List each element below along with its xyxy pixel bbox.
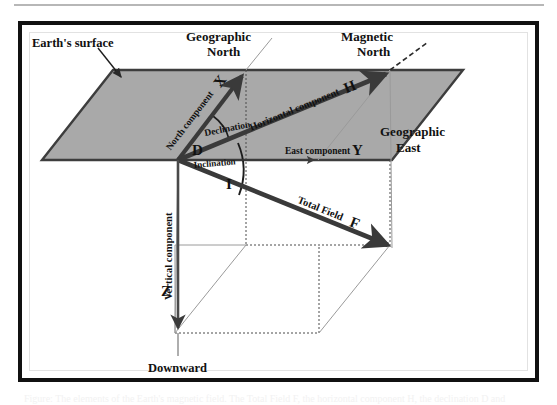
figure-inner-frame (29, 32, 528, 371)
top-horizontal-rule (14, 4, 544, 6)
figure-page: Earth's surface Geographic North Magneti… (0, 0, 557, 405)
figure-frame (18, 21, 539, 382)
figure-caption: Figure: The elements of the Earth's magn… (24, 393, 534, 404)
